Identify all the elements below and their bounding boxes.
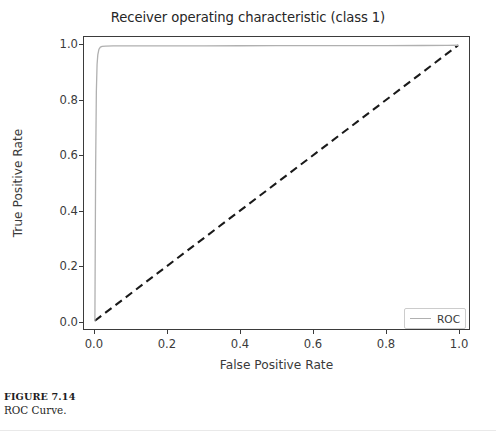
y-tick-mark	[79, 44, 83, 45]
chance-diagonal-line	[95, 45, 458, 320]
x-tick-mark	[459, 330, 460, 334]
legend-label-roc: ROC	[437, 313, 460, 325]
figure-caption: FIGURE 7.14 ROC Curve.	[4, 391, 304, 417]
x-tick-mark	[313, 330, 314, 334]
legend-line-swatch	[410, 318, 431, 319]
y-tick-label: 1.0	[18, 37, 78, 51]
x-tick-label: 1.0	[450, 337, 468, 351]
y-tick-label: 0.8	[18, 93, 78, 107]
x-tick-mark	[240, 330, 241, 334]
y-tick-mark	[79, 211, 83, 212]
y-tick-label: 0.4	[18, 204, 78, 218]
plot-canvas	[84, 37, 469, 329]
y-tick-label: 0.0	[18, 315, 78, 329]
x-tick-mark	[167, 330, 168, 334]
y-tick-mark	[79, 100, 83, 101]
y-tick-mark	[79, 155, 83, 156]
x-tick-label: 0.4	[231, 337, 249, 351]
y-tick-label: 0.2	[18, 259, 78, 273]
plot-area	[83, 36, 470, 330]
x-tick-mark	[94, 330, 95, 334]
y-tick-mark	[79, 322, 83, 323]
x-tick-mark	[386, 330, 387, 334]
figure-caption-number: FIGURE 7.14	[4, 391, 304, 403]
x-tick-label: 0.0	[85, 337, 103, 351]
x-axis-label: False Positive Rate	[83, 358, 470, 372]
y-tick-mark	[79, 266, 83, 267]
y-axis-label: True Positive Rate	[11, 129, 25, 238]
x-tick-label: 0.8	[377, 337, 395, 351]
x-tick-label: 0.2	[158, 337, 176, 351]
figure-panel: Receiver operating characteristic (class…	[0, 0, 496, 386]
figure-caption-text: ROC Curve.	[4, 404, 304, 417]
y-tick-label: 0.6	[18, 148, 78, 162]
legend-box: ROC	[404, 308, 466, 329]
x-tick-label: 0.6	[304, 337, 322, 351]
page-divider-rule	[0, 430, 496, 431]
